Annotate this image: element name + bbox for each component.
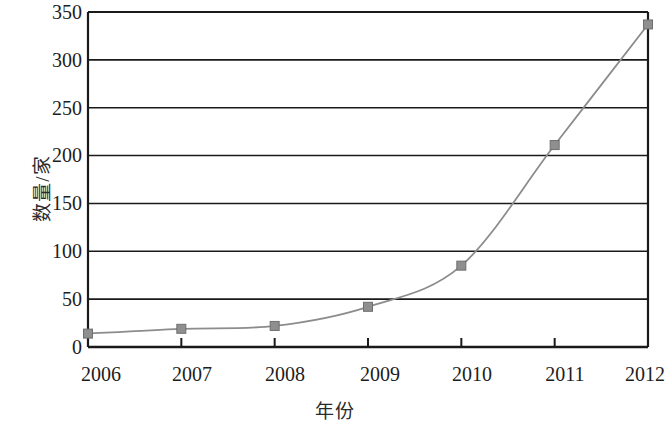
axis-frame (88, 12, 648, 347)
data-point-marker (177, 324, 186, 333)
data-markers (84, 20, 653, 338)
chart-figure: 数量/家 350 300 250 200 150 100 50 0 2006 2… (0, 0, 669, 423)
data-point-marker (270, 321, 279, 330)
plot-area (0, 0, 669, 423)
data-point-marker (84, 329, 93, 338)
data-line (88, 24, 648, 333)
data-point-marker (364, 302, 373, 311)
data-point-marker (457, 261, 466, 270)
data-point-marker (550, 141, 559, 150)
x-tick-marks (181, 338, 554, 346)
data-point-marker (644, 20, 653, 29)
gridlines (88, 12, 648, 299)
